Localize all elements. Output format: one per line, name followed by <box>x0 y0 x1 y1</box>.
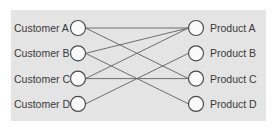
edge-cb-pa <box>86 28 189 53</box>
node-product-b <box>189 46 204 61</box>
label-product-a: Product A <box>210 22 256 34</box>
label-customer-b: Customer B <box>14 47 69 59</box>
label-product-b: Product B <box>210 47 256 59</box>
label-customer-d: Customer D <box>14 98 70 110</box>
label-product-c: Product C <box>210 73 257 85</box>
label-product-d: Product D <box>210 98 257 110</box>
customer-product-diagram: Customer ACustomer BCustomer CCustomer D… <box>0 0 276 130</box>
labels-group: Customer ACustomer BCustomer CCustomer D… <box>14 22 257 110</box>
node-customer-d <box>71 96 86 111</box>
nodes-group <box>71 21 204 112</box>
node-product-d <box>189 96 204 111</box>
node-product-a <box>189 21 204 36</box>
label-customer-a: Customer A <box>14 22 69 34</box>
node-product-c <box>189 71 204 86</box>
node-customer-a <box>71 21 86 36</box>
node-customer-b <box>71 46 86 61</box>
label-customer-c: Customer C <box>14 73 70 85</box>
node-customer-c <box>71 71 86 86</box>
edges-group <box>86 28 189 104</box>
